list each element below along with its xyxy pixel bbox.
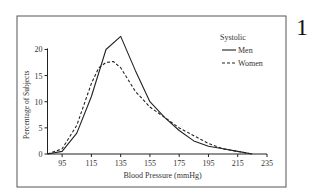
figure-number: 1 xyxy=(296,14,308,41)
y-tick-label: 5 xyxy=(39,124,43,133)
x-axis-label: Blood Pressure (mmHg) xyxy=(123,171,202,180)
series-line-women xyxy=(48,62,253,155)
y-tick-label: 15 xyxy=(35,72,43,81)
x-tick-label: 115 xyxy=(86,159,98,168)
legend-label-men: Men xyxy=(238,46,253,55)
y-tick-label: 0 xyxy=(39,150,43,159)
x-tick-label: 155 xyxy=(144,159,156,168)
y-tick-label: 20 xyxy=(35,45,43,54)
line-chart: 9511513515517519521523505101520Blood Pre… xyxy=(0,0,318,196)
x-tick-label: 215 xyxy=(232,159,244,168)
x-tick-label: 175 xyxy=(173,159,185,168)
legend-title: Systolic xyxy=(220,33,246,42)
x-tick-label: 135 xyxy=(115,159,127,168)
x-tick-label: 195 xyxy=(202,159,214,168)
legend-label-women: Women xyxy=(238,59,263,68)
y-tick-label: 10 xyxy=(35,98,43,107)
x-tick-label: 235 xyxy=(261,159,273,168)
chart-container: 9511513515517519521523505101520Blood Pre… xyxy=(0,0,318,196)
series-line-men xyxy=(48,36,253,154)
y-axis-label: Percentage of Subjects xyxy=(22,70,31,138)
x-tick-label: 95 xyxy=(58,159,66,168)
